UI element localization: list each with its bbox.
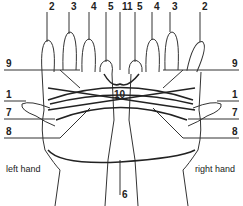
label-2-right: 2 (202, 2, 208, 12)
label-4-right: 4 (154, 2, 160, 12)
label-9-right: 9 (232, 59, 238, 69)
label-7-left: 7 (6, 108, 12, 118)
label-3-right: 3 (172, 2, 178, 12)
label-5-left: 5 (108, 2, 114, 12)
label-3-left: 3 (71, 2, 77, 12)
caption-left-hand: left hand (6, 164, 41, 174)
label-6: 6 (122, 190, 128, 200)
label-1-left: 1 (6, 90, 12, 100)
label-8-left: 8 (6, 127, 12, 137)
hands-illustration (0, 0, 243, 206)
caption-right-hand: right hand (195, 164, 235, 174)
label-11: 11 (122, 2, 133, 12)
label-5-right: 5 (137, 2, 143, 12)
label-9-left: 9 (6, 59, 12, 69)
label-2-left: 2 (49, 2, 55, 12)
label-1-right: 1 (232, 90, 238, 100)
string-figure-diagram: 2 3 4 5 11 5 4 3 2 9 1 7 8 9 1 7 8 10 6 … (0, 0, 243, 206)
label-10: 10 (114, 90, 125, 100)
label-4-left: 4 (91, 2, 97, 12)
label-8-right: 8 (232, 127, 238, 137)
label-7-right: 7 (232, 108, 238, 118)
